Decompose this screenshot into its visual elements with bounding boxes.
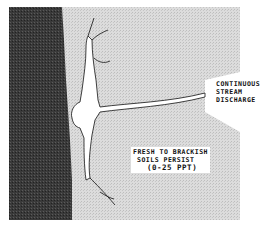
open-water [9, 7, 72, 220]
stream-discharge-label: CONTINUOUS STREAM DISCHARGE [216, 80, 260, 104]
label-line: FRESH TO BRACKISH [133, 148, 208, 156]
soils-label: FRESH TO BRACKISH SOILS PERSIST (0-25 PP… [131, 147, 210, 173]
label-line: (0-25 PPT) [133, 164, 208, 172]
label-line: STREAM [216, 88, 260, 96]
label-line: CONTINUOUS [216, 80, 260, 88]
label-line: DISCHARGE [216, 96, 260, 104]
diagram-canvas [0, 0, 270, 228]
